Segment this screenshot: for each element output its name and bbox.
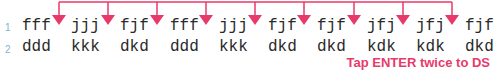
down-arrow-icon — [297, 15, 311, 25]
down-arrow-icon — [347, 15, 361, 25]
key-group: fjf — [120, 17, 149, 35]
key-group: ddd — [170, 38, 199, 56]
key-group: kdk — [367, 38, 396, 56]
key-group: jfj — [367, 17, 396, 35]
key-group: dkd — [268, 38, 297, 56]
instruction-hint: Tap ENTER twice to DS — [347, 55, 491, 70]
key-group: jjj — [219, 17, 248, 35]
line-number: 1 — [5, 22, 11, 33]
key-group: dkd — [465, 38, 494, 56]
key-group: jfj — [416, 17, 445, 35]
key-group: kkk — [219, 38, 248, 56]
key-group: fjf — [465, 17, 494, 35]
down-arrow-icon — [150, 15, 164, 25]
key-group: dkd — [120, 38, 149, 56]
key-group: kkk — [71, 38, 100, 56]
key-group: fff — [22, 17, 51, 35]
key-group: fjf — [268, 17, 297, 35]
down-arrow-icon — [199, 15, 213, 25]
key-group: ddd — [22, 38, 51, 56]
down-arrow-icon — [445, 15, 459, 25]
down-arrow-icon — [248, 15, 262, 25]
key-group: dkd — [317, 38, 346, 56]
line-number: 2 — [5, 44, 11, 55]
down-arrow-icon — [396, 15, 410, 25]
down-arrow-icon — [101, 15, 115, 25]
down-arrow-icon — [52, 15, 66, 25]
key-group: fff — [170, 17, 199, 35]
key-group: kdk — [416, 38, 445, 56]
key-group: jjj — [71, 17, 100, 35]
key-group: fjf — [317, 17, 346, 35]
